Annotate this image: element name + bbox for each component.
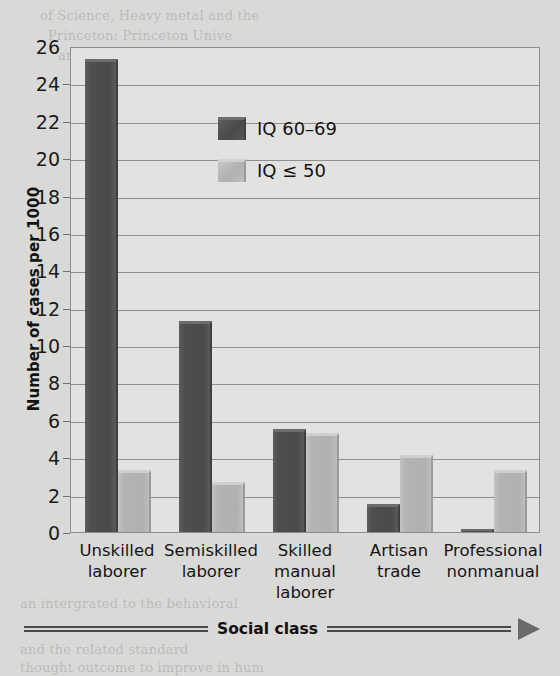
bar [367,504,400,532]
x-category-label-line: Professional [439,540,547,561]
bar [118,470,151,532]
bar-chart-figure: Number of cases per 1000 024681012141618… [0,0,560,676]
y-tick-label: 8 [14,372,60,394]
legend-item-iq-le-50: IQ ≤ 50 [218,157,337,183]
x-category-label: Professionalnonmanual [439,540,547,582]
y-tick-label: 14 [14,260,60,282]
legend-label: IQ 60–69 [257,118,337,139]
x-axis-title-row: Social class [24,618,540,640]
y-tick-label: 10 [14,335,60,357]
y-tick-mark [63,533,70,534]
y-tick-mark [63,234,70,235]
y-tick-label: 22 [14,111,60,133]
y-tick-mark [63,458,70,459]
x-category-label-line: Semiskilled [157,540,265,561]
y-tick-label: 4 [14,447,60,469]
axis-rule-right [327,626,511,632]
x-category-label-line: Skilled [251,540,359,561]
bar [461,529,494,532]
y-tick-label: 26 [14,36,60,58]
bar [306,433,339,532]
legend-label: IQ ≤ 50 [257,160,326,181]
gridline [71,384,539,385]
x-category-label-line: Artisan [345,540,453,561]
legend-item-iq-60-69: IQ 60–69 [218,115,337,141]
x-category-label: Artisantrade [345,540,453,582]
axis-rule-left [24,626,208,632]
x-category-label: Skilledmanuallaborer [251,540,359,603]
y-tick-mark [63,159,70,160]
y-tick-label: 18 [14,186,60,208]
x-category-label-line: laborer [63,561,171,582]
gridline [71,235,539,236]
arrow-right-icon [518,618,540,640]
legend-swatch-dark-icon [218,117,246,140]
x-category-label: Unskilledlaborer [63,540,171,582]
bar [85,59,118,532]
x-category-label-line: laborer [251,582,359,603]
bar [494,470,527,532]
y-tick-mark [63,421,70,422]
y-tick-label: 12 [14,298,60,320]
y-tick-mark [63,346,70,347]
legend-swatch-light-icon [218,159,246,182]
y-tick-mark [63,84,70,85]
bar [212,482,245,532]
y-tick-label: 16 [14,223,60,245]
y-tick-mark [63,122,70,123]
gridline [71,347,539,348]
x-category-label: Semiskilledlaborer [157,540,265,582]
gridline [71,272,539,273]
x-category-label-line: nonmanual [439,561,547,582]
gridline [71,422,539,423]
y-tick-label: 0 [14,522,60,544]
bar [400,455,433,532]
x-axis-title: Social class [217,620,318,638]
y-tick-label: 2 [14,485,60,507]
y-tick-label: 24 [14,73,60,95]
legend: IQ 60–69 IQ ≤ 50 [218,115,337,183]
x-category-label-line: trade [345,561,453,582]
y-tick-label: 20 [14,148,60,170]
y-tick-mark [63,496,70,497]
y-tick-mark [63,309,70,310]
x-category-label-line: manual [251,561,359,582]
y-tick-mark [63,271,70,272]
y-tick-mark [63,197,70,198]
gridline [71,85,539,86]
y-tick-mark [63,383,70,384]
gridline [71,310,539,311]
y-tick-label: 6 [14,410,60,432]
bar [273,429,306,532]
bar [179,321,212,532]
gridline [71,198,539,199]
x-category-label-line: laborer [157,561,265,582]
x-category-label-line: Unskilled [63,540,171,561]
